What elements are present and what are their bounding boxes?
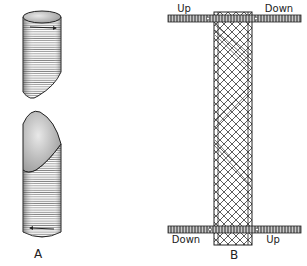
top-bar: [168, 15, 301, 22]
label-top-down: Down: [265, 3, 293, 14]
lower-cylinder: [23, 111, 61, 237]
diagram: A Up Down Down Up B: [0, 0, 307, 266]
label-b: B: [230, 248, 238, 262]
label-bottom-up: Up: [266, 234, 280, 245]
crosshatch-strip: [214, 12, 252, 245]
label-bottom-down: Down: [172, 234, 200, 245]
label-a: A: [34, 247, 43, 261]
bottom-bar: [168, 226, 301, 233]
upper-cylinder: [23, 11, 61, 98]
label-top-up: Up: [177, 3, 191, 14]
